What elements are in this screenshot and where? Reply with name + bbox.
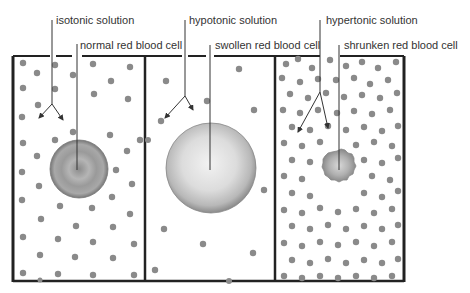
swollen-cell-label: swollen red blood cell	[215, 39, 320, 51]
hypertonic-solution-label: hypertonic solution	[326, 14, 418, 26]
shrunken-cell-label: shrunken red blood cell	[344, 39, 458, 51]
isotonic-solution-label: isotonic solution	[56, 14, 134, 26]
normal-red-blood-cell	[50, 140, 108, 198]
normal-cell-label: normal red blood cell	[80, 39, 182, 51]
swollen-red-blood-cell	[166, 123, 256, 213]
hypotonic-solution-label: hypotonic solution	[189, 14, 277, 26]
